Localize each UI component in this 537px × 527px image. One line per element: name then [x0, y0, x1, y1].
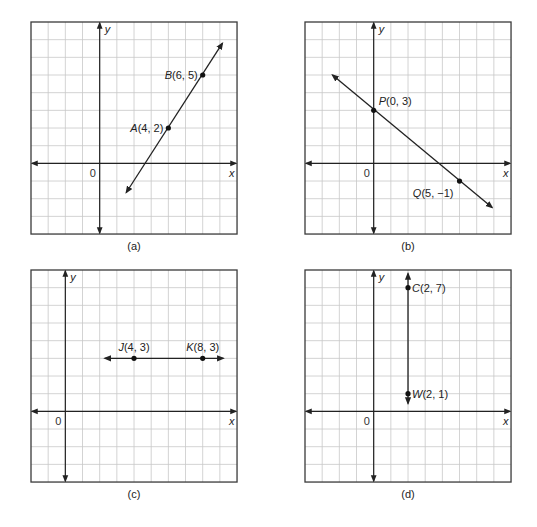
origin-label: 0 — [90, 167, 96, 179]
point-coords: (0, 3) — [386, 95, 412, 107]
point-w — [405, 391, 410, 396]
point-name: B — [165, 69, 172, 81]
origin-label: 0 — [55, 415, 61, 427]
x-axis-label: x — [228, 415, 235, 427]
point-label-a: A(4, 2) — [129, 122, 163, 134]
point-a — [166, 125, 171, 130]
point-label-p: P(0, 3) — [379, 95, 412, 107]
panel-caption: (b) — [401, 240, 414, 252]
point-label-b: B(6, 5) — [165, 69, 198, 81]
y-axis-label: y — [378, 271, 386, 283]
point-q — [457, 178, 462, 183]
x-axis-label: x — [502, 167, 509, 179]
panel-c: xy0J(4, 3)K(8, 3)(c) — [31, 270, 237, 500]
origin-label: 0 — [364, 167, 370, 179]
point-c — [405, 285, 410, 290]
grid — [31, 270, 237, 482]
point-coords: (5, −1) — [421, 187, 453, 199]
point-label-q: Q(5, −1) — [413, 187, 454, 199]
origin-label: 0 — [364, 415, 370, 427]
point-coords: (8, 3) — [194, 341, 220, 353]
point-label-j: J(4, 3) — [117, 341, 149, 353]
point-b — [200, 72, 205, 77]
point-coords: (2, 7) — [420, 282, 446, 294]
y-axis-label: y — [378, 23, 386, 35]
point-label-c: C(2, 7) — [412, 282, 446, 294]
panel-caption: (d) — [401, 488, 414, 500]
coordinate-graphs-figure: xy0A(4, 2)B(6, 5)(a) xy0P(0, 3)Q(5, −1)(… — [0, 0, 537, 527]
panel-caption: (a) — [127, 240, 140, 252]
panel-a: xy0A(4, 2)B(6, 5)(a) — [31, 22, 237, 252]
point-label-k: K(8, 3) — [186, 341, 219, 353]
point-k — [200, 356, 205, 361]
point-j — [131, 356, 136, 361]
point-coords: (2, 1) — [422, 388, 448, 400]
point-coords: (4, 2) — [138, 122, 164, 134]
point-label-w: W(2, 1) — [412, 388, 448, 400]
y-axis-label: y — [104, 23, 112, 35]
panel-b: xy0P(0, 3)Q(5, −1)(b) — [305, 22, 511, 252]
point-name: C — [412, 282, 420, 294]
panel-caption: (c) — [128, 488, 141, 500]
grid — [305, 22, 511, 234]
y-axis-label: y — [69, 271, 77, 283]
point-coords: (4, 3) — [124, 341, 150, 353]
panel-d: xy0C(2, 7)W(2, 1)(d) — [305, 270, 511, 500]
plotted-line — [126, 43, 222, 192]
x-axis-label: x — [502, 415, 509, 427]
point-name: A — [129, 122, 137, 134]
point-coords: (6, 5) — [172, 69, 198, 81]
x-axis-label: x — [228, 167, 235, 179]
point-p — [371, 108, 376, 113]
